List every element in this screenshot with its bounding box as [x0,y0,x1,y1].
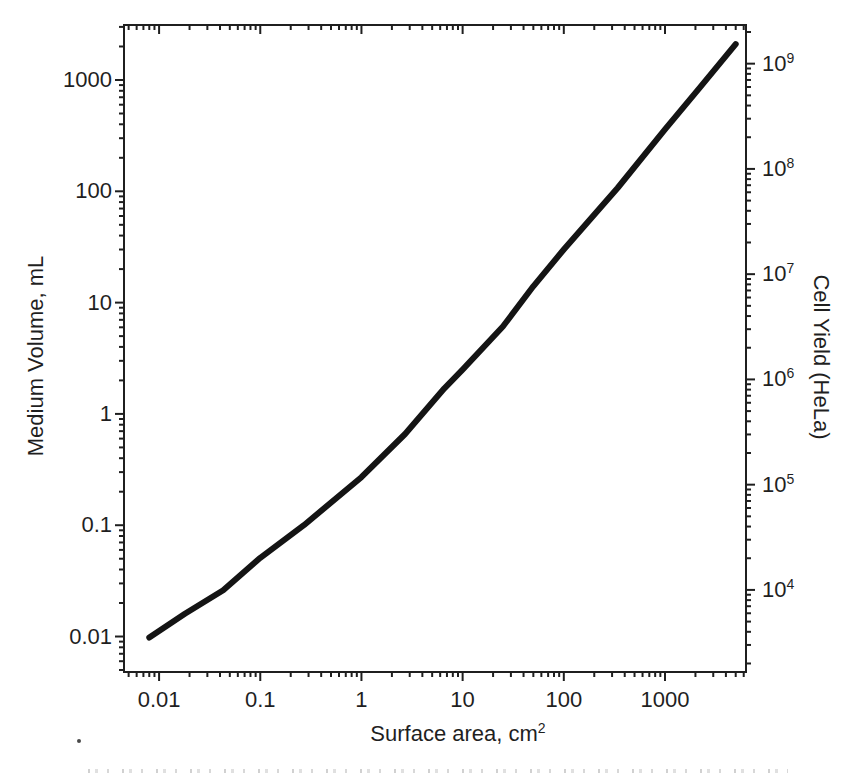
y-axis-left-ticks [115,27,124,670]
y-right-tick-exponent: 7 [786,260,794,276]
x-tick-label: 0.1 [245,688,276,712]
y-right-tick-exponent: 9 [786,49,794,65]
y-right-tick-base: 10 [762,156,786,181]
y-left-tick-label: 0.1 [0,513,112,537]
y-right-tick-label: 107 [762,262,794,286]
x-axis-title-superscript: 2 [538,720,546,736]
y-right-tick-exponent: 6 [786,365,794,381]
y-right-tick-base: 10 [762,51,786,76]
medium-volume-curve [149,44,735,637]
y-right-tick-label: 105 [762,473,794,497]
y-left-tick-label: 0.01 [0,625,112,649]
x-tick-label: 0.01 [138,688,181,712]
plot-frame [124,25,746,672]
y-right-tick-label: 109 [762,52,794,76]
y-right-tick-exponent: 5 [786,470,794,486]
y-left-tick-label: 1 [0,402,112,426]
scanned-chart-figure: 0.010.111010010000.010.11101001000104105… [0,0,857,774]
x-tick-label: 10 [450,688,474,712]
x-tick-label: 1 [355,688,367,712]
y-left-tick-label: 100 [0,179,112,203]
clipped-caption-fragment [88,769,788,773]
x-axis-title-text: Surface area, cm [370,721,538,746]
y-right-tick-label: 106 [762,367,794,391]
y-right-tick-exponent: 4 [786,576,794,592]
y-axis-right-ticks [746,32,755,664]
y-left-tick-label: 10 [0,291,112,315]
x-tick-label: 1000 [641,688,690,712]
y-right-tick-exponent: 8 [786,155,794,171]
x-tick-label: 100 [545,688,582,712]
chart-plot-svg [0,0,857,774]
y-right-tick-label: 108 [762,157,794,181]
y-left-tick-label: 1000 [0,68,112,92]
stray-period-mark [77,739,81,743]
x-axis-title: Surface area, cm2 [370,721,545,747]
y-right-tick-label: 104 [762,578,794,602]
y-axis-right-title: Cell Yield (HeLa) [808,274,834,439]
y-right-tick-base: 10 [762,261,786,286]
x-axis-ticks [129,25,744,681]
y-right-tick-base: 10 [762,472,786,497]
y-axis-left-title: Medium Volume, mL [23,256,49,457]
y-right-tick-base: 10 [762,366,786,391]
y-right-tick-base: 10 [762,577,786,602]
